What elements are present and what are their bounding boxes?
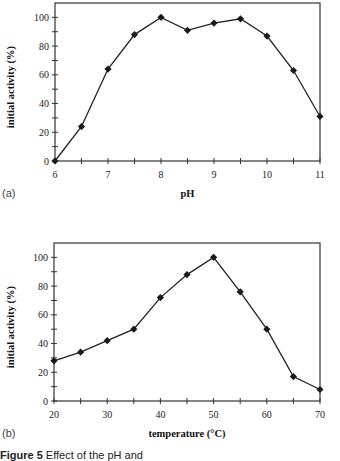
plot-frame (54, 243, 320, 401)
y-tick-label: 40 (39, 98, 49, 109)
figure-caption: Figure 5 Effect of the pH and (0, 449, 143, 461)
x-tick-label: 20 (49, 409, 59, 420)
y-tick-label: 100 (34, 12, 49, 23)
panel-label: (b) (2, 427, 15, 439)
y-axis-title: initial activity (%) (5, 45, 17, 128)
data-point-marker (237, 15, 244, 22)
x-tick-label: 11 (315, 169, 325, 180)
data-point-marker (157, 14, 164, 21)
y-tick-label: 60 (39, 69, 49, 80)
y-tick-label: 0 (43, 396, 48, 407)
y-tick-label: 80 (38, 281, 48, 292)
x-tick-label: 40 (155, 409, 165, 420)
y-tick-label: 100 (33, 252, 48, 263)
x-tick-label: 8 (159, 169, 164, 180)
data-point-marker (316, 113, 323, 120)
caption-text: Effect of the pH and (46, 449, 143, 461)
x-tick-label: 6 (53, 169, 58, 180)
x-axis-title: pH (180, 188, 194, 199)
y-tick-label: 60 (38, 309, 48, 320)
x-axis-title: temperature (°C) (148, 428, 226, 440)
x-tick-label: 7 (106, 169, 111, 180)
data-point-marker (210, 20, 217, 27)
y-tick-label: 40 (38, 338, 48, 349)
data-point-marker (184, 27, 191, 34)
x-tick-label: 50 (209, 409, 219, 420)
data-point-marker (290, 373, 297, 380)
y-tick-label: 0 (44, 156, 49, 167)
x-tick-label: 9 (212, 169, 217, 180)
data-line (55, 17, 320, 161)
chart-panel-a: 02040608010067891011initial activity (%)… (2, 3, 325, 199)
data-point-marker (316, 386, 323, 393)
y-axis-title: initial activity (%) (5, 285, 17, 368)
panel-label: (a) (2, 187, 15, 199)
chart-panel-b: 020406080100203040506070initial activity… (2, 243, 325, 440)
data-point-marker (77, 349, 84, 356)
x-tick-label: 70 (315, 409, 325, 420)
x-tick-label: 60 (262, 409, 272, 420)
y-tick-label: 20 (38, 367, 48, 378)
caption-label: Figure 5 (0, 449, 43, 461)
y-tick-label: 20 (39, 127, 49, 138)
y-tick-label: 80 (39, 41, 49, 52)
x-tick-label: 10 (262, 169, 272, 180)
data-point-marker (104, 337, 111, 344)
x-tick-label: 30 (102, 409, 112, 420)
